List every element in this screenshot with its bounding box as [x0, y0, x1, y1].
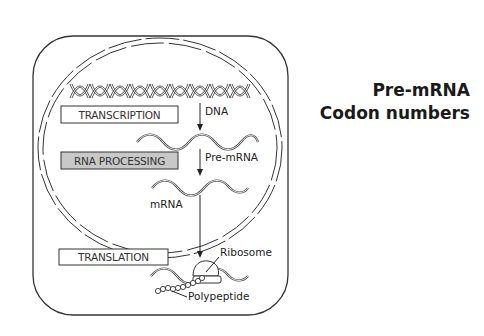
- translation-label: TRANSLATION: [77, 251, 149, 263]
- dna-arrow-icon: [197, 103, 203, 131]
- mrna-strand-icon: [152, 181, 248, 196]
- rna-processing-box: RNA PROCESSING: [61, 152, 178, 169]
- ribosome-label: Ribosome: [220, 246, 272, 258]
- rna-processing-label: RNA PROCESSING: [74, 155, 165, 167]
- pre-mrna-label: Pre-mRNA: [205, 151, 259, 163]
- transcription-label: TRANSCRIPTION: [77, 109, 160, 121]
- mrna-label: mRNA: [150, 198, 183, 210]
- cell-outline: [33, 36, 288, 315]
- translation-box: TRANSLATION: [59, 249, 168, 265]
- side-title-pre-mrna: Pre-mRNA: [372, 80, 470, 100]
- pre-mrna-arrow-icon: [197, 149, 203, 176]
- gene-expression-diagram: TRANSCRIPTION DNA RNA PROCESSING Pre-mRN…: [0, 0, 320, 336]
- polypeptide-pointer: [172, 291, 187, 297]
- pre-mrna-strand-icon: [137, 135, 258, 150]
- nuclear-envelope: [38, 38, 282, 258]
- dna-label: DNA: [205, 105, 229, 117]
- transcription-box: TRANSCRIPTION: [61, 106, 178, 123]
- dna-helix-icon: [70, 84, 250, 98]
- polypeptide-label: Polypeptide: [188, 290, 249, 302]
- mrna-export-arrow-icon: [197, 195, 203, 258]
- side-title-codon-numbers: Codon numbers: [320, 103, 470, 123]
